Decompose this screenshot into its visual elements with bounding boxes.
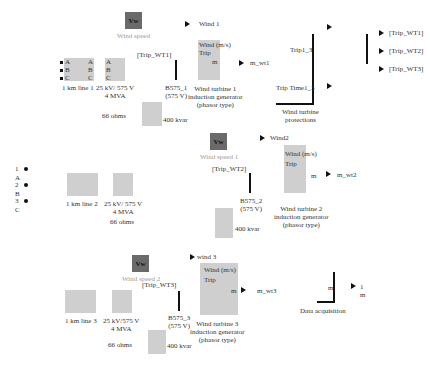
port-m: m — [311, 172, 316, 180]
line-label-1: 1 km line 1 — [62, 84, 94, 92]
bus-2[interactable] — [249, 173, 251, 193]
capacitor-label-1: 400 kvar — [163, 116, 188, 124]
trip-out-1[interactable]: [Trip_WT1] — [389, 29, 423, 37]
line-block-3[interactable] — [65, 290, 96, 313]
wind-speed-block-3[interactable]: Vw — [132, 255, 149, 272]
arrow-icon — [351, 283, 356, 289]
trip-time1-3-label: Trip Time1_3 — [276, 84, 314, 92]
port — [24, 199, 28, 203]
protections-bar-v — [312, 34, 314, 104]
wind-speed-icon: Vw — [128, 17, 138, 25]
bus-label-3: B575_3(575 V) — [168, 314, 190, 330]
protections-bar-h — [276, 103, 314, 105]
daq-label: Data acquisition — [300, 307, 346, 315]
wind-speed-block-2[interactable]: Vw — [210, 133, 227, 150]
transformer-block-3[interactable] — [112, 290, 132, 313]
grounding-label-3: 66 ohms — [108, 341, 132, 349]
port-b: B — [65, 66, 70, 74]
grounding-label-2: 66 ohms — [110, 218, 134, 226]
wind-speed-label-1: Wind speed — [117, 32, 150, 40]
trip-out-3[interactable]: [Trip_WT3] — [389, 65, 423, 73]
trip-tag-3[interactable]: [Trip_WT3] — [142, 281, 176, 289]
line-label-3: 1 km line 3 — [65, 317, 97, 325]
bus-label-2: B575_2(575 V) — [240, 197, 262, 213]
trip-tag-1[interactable]: [Trip_WT1] — [137, 51, 171, 59]
wind-speed-label-2: Wind speed 1 — [200, 153, 238, 161]
capacitor-block-3[interactable] — [148, 330, 166, 354]
wind-speed-block-1[interactable]: Vw — [125, 12, 142, 29]
arrow-icon — [185, 21, 190, 27]
turbine-label-1: Wind turbine 1induction generator(phasor… — [188, 85, 243, 109]
port-trip: Trip — [285, 160, 297, 168]
port-trip: Trip — [199, 49, 211, 57]
capacitor-label-2: 400 kvar — [235, 225, 260, 233]
arrow-icon — [327, 83, 332, 89]
m-wt1-tag[interactable]: m_wt1 — [250, 59, 269, 67]
port-b: B — [88, 66, 93, 74]
bus-1[interactable] — [175, 60, 177, 80]
wind-tag-2[interactable]: Wind2 — [270, 134, 289, 142]
port-m: m — [231, 287, 236, 295]
arrow-icon — [326, 171, 331, 177]
port — [24, 167, 28, 171]
port — [60, 61, 63, 64]
trip-tag-2[interactable]: [Trip_WT2] — [212, 165, 246, 173]
arrow-icon — [260, 135, 265, 141]
daq-out2: m — [360, 291, 365, 299]
port-a: A — [106, 58, 111, 66]
transformer-label-1: 25 kV/ 575 V4 MVA — [96, 84, 134, 100]
port — [60, 69, 63, 72]
wind-tag-1[interactable]: Wind 1 — [199, 20, 220, 28]
source-2: 2 — [15, 181, 19, 189]
line-block-2[interactable] — [67, 173, 98, 196]
capacitor-block-2[interactable] — [215, 208, 233, 238]
arrow-icon — [241, 287, 246, 293]
port-wind: Wind (m/s) — [285, 150, 317, 158]
capacitor-label-3: 400 kvar — [167, 342, 192, 350]
bus-label-1: B575_1(575 V) — [165, 84, 187, 100]
grounding-label-1: 66 ohms — [102, 112, 126, 120]
port-a: A — [88, 58, 93, 66]
capacitor-block-1[interactable] — [142, 102, 162, 126]
port-c: C — [65, 74, 70, 82]
arrow-icon — [327, 24, 332, 30]
arrow-icon — [379, 30, 384, 36]
turbine-label-2: Wind turbine 2induction generator(phasor… — [274, 205, 329, 229]
daq-bar-h — [317, 301, 335, 303]
m-wt3-tag[interactable]: m_wt3 — [257, 287, 276, 295]
port-wind: Wind (m/s) — [204, 266, 236, 274]
demux-bar — [366, 34, 368, 64]
transformer-block-2[interactable] — [113, 173, 133, 196]
transformer-label-2: 25 kV/ 575 V4 MVA — [104, 200, 142, 216]
protections-label: Wind turbineprotections — [282, 108, 319, 124]
port-b: B — [106, 66, 111, 74]
port-a: A — [65, 58, 70, 66]
m-wt2-tag[interactable]: m_wt2 — [337, 171, 356, 179]
port-c: C — [88, 74, 93, 82]
transformer-label-3: 25 kV/575 V4 MVA — [103, 317, 139, 333]
port-c: C — [106, 74, 111, 82]
wind-tag-3[interactable]: wind 3 — [197, 253, 216, 261]
trip1-3-label: Trip1_3 — [290, 46, 312, 54]
port-wind: Wind (m/s) — [199, 41, 231, 49]
port — [60, 77, 63, 80]
arrow-icon — [190, 254, 195, 260]
source-1: 1 — [15, 165, 19, 173]
bus-3[interactable] — [178, 291, 180, 311]
turbine-label-3: Wind turbine 3induction generator(phasor… — [190, 320, 245, 344]
daq-out1: 1 — [360, 283, 364, 291]
port-m: m — [212, 58, 217, 66]
line-label-2: 1 km line 2 — [66, 200, 98, 208]
port-trip: Trip — [204, 276, 216, 284]
source-c: C — [15, 206, 20, 214]
arrow-icon — [379, 66, 384, 72]
daq-in: m — [328, 284, 333, 292]
arrow-icon — [239, 60, 244, 66]
trip-out-2[interactable]: [Trip_WT2] — [389, 47, 423, 55]
port — [24, 183, 28, 187]
source-3: 3 — [15, 197, 19, 205]
arrow-icon — [379, 48, 384, 54]
